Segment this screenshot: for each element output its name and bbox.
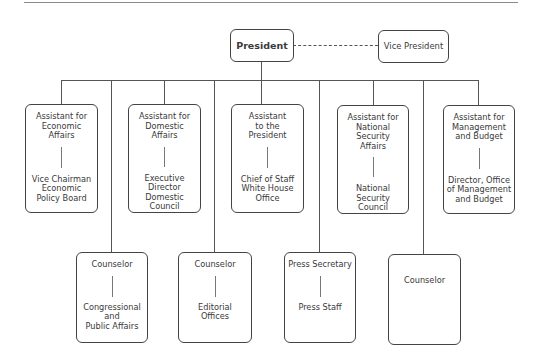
president-box: President: [230, 29, 294, 62]
inner-connector: [112, 276, 113, 297]
president-vp-dashed-connector: [293, 45, 378, 46]
box-domestic-affairs: Assistant for Domestic Affairs Executive…: [128, 104, 201, 213]
stem-press-secretary: [319, 80, 320, 252]
box-title: Assistant for Domestic Affairs: [137, 112, 192, 141]
stem-economic: [61, 80, 62, 105]
vice-president-box: Vice President: [378, 30, 449, 63]
box-national-security: Assistant for National Security Affairs …: [337, 105, 409, 214]
box-title: Counselor: [402, 276, 447, 286]
box-press-secretary: Press Secretary Press Staff: [284, 252, 356, 343]
vice-president-label: Vice President: [384, 42, 443, 52]
box-counselor: Counselor: [388, 254, 461, 345]
box-title: Assistant to the President: [246, 112, 288, 141]
stem-management-budget: [478, 80, 479, 105]
box-title: Assistant for Economic Affairs: [34, 112, 89, 141]
box-title: Counselor: [192, 260, 237, 270]
box-title: Counselor: [89, 260, 134, 270]
inner-connector: [267, 147, 268, 168]
box-subtitle: Executive Director Domestic Council: [129, 174, 200, 212]
box-subtitle: Press Staff: [296, 303, 343, 313]
box-subtitle: Director, Office of Management and Budge…: [445, 176, 513, 205]
stem-counselor-editorial: [214, 80, 215, 252]
stem-counselor-congressional: [111, 80, 112, 252]
president-stem: [261, 62, 262, 80]
box-title: Press Secretary: [286, 260, 354, 270]
box-counselor-congressional: Counselor Congressional and Public Affai…: [76, 252, 148, 343]
top-rule: [24, 2, 518, 3]
stem-chief-of-staff: [261, 80, 262, 104]
box-title: Assistant for National Security Affairs: [338, 113, 408, 151]
box-title: Assistant for Management and Budget: [450, 113, 508, 142]
box-subtitle: National Security Council: [354, 184, 392, 213]
box-subtitle: Editorial Offices: [196, 303, 234, 322]
box-subtitle: Vice Chairman Economic Policy Board: [30, 175, 93, 204]
box-management-budget: Assistant for Management and Budget Dire…: [443, 105, 515, 214]
box-counselor-editorial: Counselor Editorial Offices: [178, 252, 252, 343]
box-economic-affairs: Assistant for Economic Affairs Vice Chai…: [25, 104, 98, 213]
box-subtitle: Congressional and Public Affairs: [81, 303, 143, 332]
inner-connector: [320, 276, 321, 297]
stem-counselor: [423, 80, 424, 254]
box-subtitle: Chief of Staff White House Office: [239, 175, 296, 204]
inner-connector: [215, 276, 216, 297]
inner-connector: [373, 157, 374, 177]
inner-connector: [479, 148, 480, 169]
president-label: President: [236, 41, 288, 51]
stem-national-security: [373, 80, 374, 105]
main-horizontal-connector: [61, 80, 479, 81]
inner-connector: [164, 147, 165, 167]
inner-connector: [61, 147, 62, 168]
stem-domestic: [164, 80, 165, 104]
box-assistant-to-president: Assistant to the President Chief of Staf…: [231, 104, 304, 213]
